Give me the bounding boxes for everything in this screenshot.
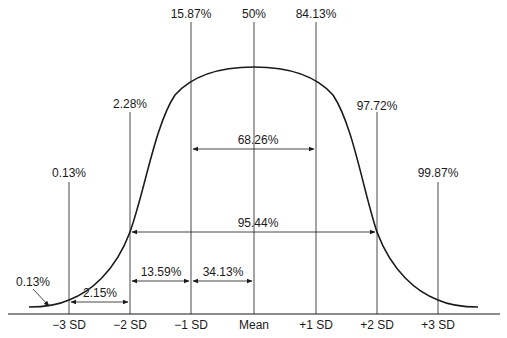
cumulative-label-mean: 50% bbox=[242, 7, 266, 21]
axis-label-m2: −2 SD bbox=[113, 318, 147, 332]
axis-label-m3: −3 SD bbox=[52, 318, 86, 332]
cumulative-label-p2: 97.72% bbox=[357, 99, 398, 113]
axis-label-m1: −1 SD bbox=[174, 318, 208, 332]
interval-label-pm1: 68.26% bbox=[238, 133, 279, 147]
axis-label-p1: +1 SD bbox=[299, 318, 333, 332]
interval-label-m2-m1: 13.59% bbox=[141, 265, 182, 279]
cumulative-label-m2: 2.28% bbox=[113, 97, 147, 111]
tail-pointer-arrow bbox=[33, 289, 49, 306]
normal-distribution-chart: 0.13% 2.28% 15.87% 50% 84.13% 97.72% 99.… bbox=[0, 0, 507, 338]
cumulative-label-m3: 0.13% bbox=[52, 166, 86, 180]
interval-label-m3-m2: 2.15% bbox=[83, 286, 117, 300]
cumulative-label-m1: 15.87% bbox=[171, 7, 212, 21]
normal-curve bbox=[29, 67, 478, 307]
axis-label-p3: +3 SD bbox=[421, 318, 455, 332]
axis-label-mean: Mean bbox=[239, 318, 269, 332]
cumulative-label-p1: 84.13% bbox=[296, 7, 337, 21]
interval-label-tail: 0.13% bbox=[16, 275, 50, 289]
axis-label-p2: +2 SD bbox=[360, 318, 394, 332]
interval-label-m1-mean: 34.13% bbox=[203, 265, 244, 279]
interval-label-pm2: 95.44% bbox=[238, 216, 279, 230]
cumulative-label-p3: 99.87% bbox=[418, 166, 459, 180]
